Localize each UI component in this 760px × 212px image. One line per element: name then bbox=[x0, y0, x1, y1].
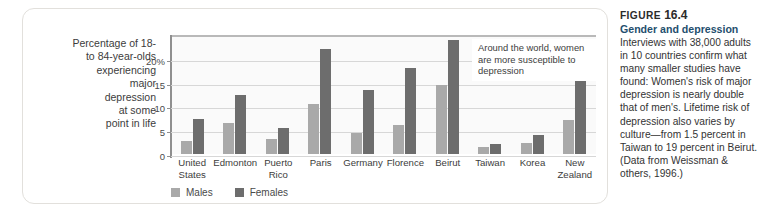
y-axis-caption-line: Percentage of 18- bbox=[31, 37, 156, 50]
y-axis-caption-line: major bbox=[31, 77, 156, 90]
x-axis-labels: UnitedStatesEdmontonPuertoRicoParisGerma… bbox=[171, 157, 596, 180]
bar-females bbox=[490, 144, 501, 154]
caption-body: Interviews with 38,000 adults in 10 coun… bbox=[620, 36, 760, 180]
bar-group bbox=[426, 37, 469, 154]
bar-females bbox=[363, 90, 374, 154]
bar-females bbox=[235, 95, 246, 155]
bar-group bbox=[214, 37, 257, 154]
figure-label: FIGURE 16.4 bbox=[620, 8, 754, 22]
y-axis-tick-label: 5 bbox=[160, 127, 165, 138]
y-axis-caption-line: experiencing bbox=[31, 64, 156, 77]
x-axis-label: PuertoRico bbox=[257, 157, 299, 180]
figure-caption: FIGURE 16.4 Gender and depression Interv… bbox=[620, 8, 754, 180]
bar-males bbox=[266, 139, 277, 154]
legend-item-females: Females bbox=[235, 187, 288, 198]
x-axis-label: Korea bbox=[511, 157, 553, 180]
x-axis-label: NewZealand bbox=[554, 157, 596, 180]
y-axis-caption: Percentage of 18-to 84-year-oldsexperien… bbox=[31, 37, 156, 131]
figure-number: 16.4 bbox=[664, 8, 687, 22]
y-axis-tick-label: 15 bbox=[154, 79, 165, 90]
bar-males bbox=[223, 123, 234, 154]
y-axis-caption-line: depression bbox=[31, 91, 156, 104]
bar-females bbox=[533, 135, 544, 154]
chart-legend: MalesFemales bbox=[171, 187, 288, 198]
chart-panel: Percentage of 18-to 84-year-oldsexperien… bbox=[22, 8, 608, 204]
x-axis-label: Paris bbox=[299, 157, 341, 180]
bar-males bbox=[351, 133, 362, 154]
bar-group bbox=[341, 37, 384, 154]
x-axis-label: Edmonton bbox=[213, 157, 257, 180]
legend-item-males: Males bbox=[171, 187, 213, 198]
figure-word: FIGURE bbox=[620, 10, 661, 21]
bar-females bbox=[448, 40, 459, 154]
bar-females bbox=[320, 49, 331, 154]
y-axis-tick-label: 10 bbox=[154, 103, 165, 114]
x-axis-label: Taiwan bbox=[469, 157, 511, 180]
legend-label: Females bbox=[250, 187, 288, 198]
bar-females bbox=[405, 68, 416, 154]
bar-females bbox=[193, 119, 204, 154]
bar-males bbox=[393, 125, 404, 155]
legend-label: Males bbox=[186, 187, 213, 198]
bar-males bbox=[181, 141, 192, 154]
bar-females bbox=[575, 81, 586, 154]
bar-males bbox=[436, 85, 447, 154]
x-axis-label: Beirut bbox=[427, 157, 469, 180]
bar-group bbox=[299, 37, 342, 154]
x-axis-label: UnitedStates bbox=[171, 157, 213, 180]
bar-males bbox=[563, 120, 574, 154]
bar-group bbox=[171, 37, 214, 154]
y-axis-tick-label: 0 bbox=[160, 151, 165, 162]
x-axis-label: Germany bbox=[342, 157, 384, 180]
legend-swatch-males bbox=[171, 188, 180, 197]
y-axis-caption-line: point in life bbox=[31, 117, 156, 130]
y-axis-caption-line: at some bbox=[31, 104, 156, 117]
bar-females bbox=[278, 128, 289, 154]
x-axis-label: Florence bbox=[384, 157, 426, 180]
bar-group bbox=[256, 37, 299, 154]
annotation-callout: Around the world, women are more suscept… bbox=[472, 39, 600, 81]
legend-swatch-females bbox=[235, 188, 244, 197]
caption-title: Gender and depression bbox=[620, 23, 754, 35]
y-axis-tick-label: 20% bbox=[146, 55, 165, 66]
bar-males bbox=[308, 104, 319, 154]
bar-group bbox=[384, 37, 427, 154]
y-axis-caption-line: to 84-year-olds bbox=[31, 50, 156, 63]
bar-males bbox=[521, 143, 532, 154]
bar-males bbox=[478, 147, 489, 154]
